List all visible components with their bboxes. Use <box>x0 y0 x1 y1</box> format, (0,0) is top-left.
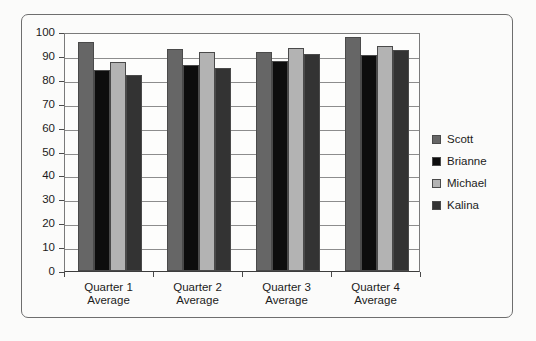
x-axis-category-label: Quarter 1Average <box>62 281 156 307</box>
bar <box>288 48 304 271</box>
x-axis-tick <box>242 272 243 277</box>
x-axis-category-label: Quarter 4Average <box>329 281 423 307</box>
y-axis-tick-label: 70 <box>21 99 55 110</box>
legend-label: Brianne <box>447 155 487 167</box>
bar <box>377 46 393 271</box>
x-axis-label-line: Quarter 1 <box>62 281 156 294</box>
y-axis-tick-label: 30 <box>21 194 55 205</box>
legend-label: Kalina <box>447 199 479 211</box>
legend-swatch-icon <box>432 179 441 188</box>
x-axis-label-line: Quarter 2 <box>151 281 245 294</box>
bar <box>183 65 199 271</box>
x-axis-label-line: Average <box>240 294 334 307</box>
legend-item: Michael <box>432 172 487 194</box>
x-axis-tick <box>331 272 332 277</box>
legend-label: Michael <box>447 177 487 189</box>
chart-legend: ScottBrianneMichaelKalina <box>432 128 487 216</box>
legend-swatch-icon <box>432 135 441 144</box>
bar <box>272 61 288 271</box>
y-axis-tick-label: 90 <box>21 51 55 62</box>
bar <box>167 49 183 271</box>
bar <box>78 42 94 271</box>
x-axis-label-line: Average <box>62 294 156 307</box>
legend-swatch-icon <box>432 201 441 210</box>
bar <box>126 75 142 271</box>
x-axis-category-label: Quarter 3Average <box>240 281 334 307</box>
x-axis-tick <box>64 272 65 277</box>
y-axis-tick-label: 100 <box>21 27 55 38</box>
x-axis-tick <box>153 272 154 277</box>
legend-item: Kalina <box>432 194 487 216</box>
y-axis-tick-label: 10 <box>21 242 55 253</box>
x-axis-category-label: Quarter 2Average <box>151 281 245 307</box>
bar <box>345 37 361 271</box>
x-axis-label-line: Quarter 4 <box>329 281 423 294</box>
bar <box>215 68 231 271</box>
y-axis-tick-label: 40 <box>21 170 55 181</box>
bar <box>304 54 320 271</box>
bar <box>256 52 272 271</box>
legend-item: Brianne <box>432 150 487 172</box>
bar-groups <box>65 34 419 271</box>
chart-figure: 0102030405060708090100 Quarter 1AverageQ… <box>0 0 536 341</box>
bar <box>199 52 215 271</box>
legend-item: Scott <box>432 128 487 150</box>
bar <box>94 70 110 271</box>
legend-label: Scott <box>447 133 473 145</box>
legend-swatch-icon <box>432 157 441 166</box>
y-axis-tick-label: 20 <box>21 218 55 229</box>
y-axis-tick-label: 80 <box>21 75 55 86</box>
x-axis-label-line: Average <box>329 294 423 307</box>
y-axis-tick-label: 0 <box>21 266 55 277</box>
bar <box>110 62 126 271</box>
y-axis-tick-label: 50 <box>21 147 55 158</box>
x-axis-label-line: Average <box>151 294 245 307</box>
x-axis-label-line: Quarter 3 <box>240 281 334 294</box>
y-axis-tick-label: 60 <box>21 123 55 134</box>
bar <box>393 50 409 271</box>
bar <box>361 55 377 271</box>
x-axis-tick <box>420 272 421 277</box>
plot-area <box>64 33 420 272</box>
